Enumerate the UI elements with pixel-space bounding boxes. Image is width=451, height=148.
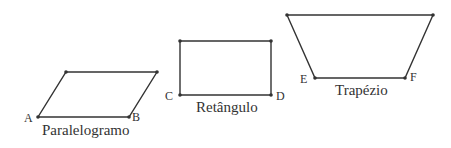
vertex-dot <box>36 115 40 119</box>
shape-2-outline <box>180 41 271 95</box>
vertex-dot <box>269 93 273 97</box>
shape-3-outline <box>287 15 433 78</box>
vertex-label-d: D <box>276 89 285 104</box>
vertex-dot <box>285 13 289 17</box>
vertex-label-e: E <box>300 72 307 87</box>
vertex-dot <box>64 70 68 74</box>
vertex-dot <box>178 93 182 97</box>
vertex-dot <box>178 39 182 43</box>
caption-paralelogramo: Paralelogramo <box>42 122 129 139</box>
vertex-dot <box>403 76 407 80</box>
vertex-dot <box>269 39 273 43</box>
vertex-label-b: B <box>132 110 140 125</box>
vertex-dot <box>431 13 435 17</box>
caption-trapezio: Trapézio <box>335 82 388 99</box>
vertex-dot <box>127 115 131 119</box>
vertex-label-c: C <box>165 89 173 104</box>
quadrilaterals-diagram: A B Paralelogramo C D Retângulo E F Trap… <box>0 0 451 148</box>
vertex-label-a: A <box>24 111 33 126</box>
caption-retangulo: Retângulo <box>196 99 258 116</box>
vertex-dot <box>313 76 317 80</box>
vertex-dot <box>155 70 159 74</box>
vertex-label-f: F <box>410 70 417 85</box>
